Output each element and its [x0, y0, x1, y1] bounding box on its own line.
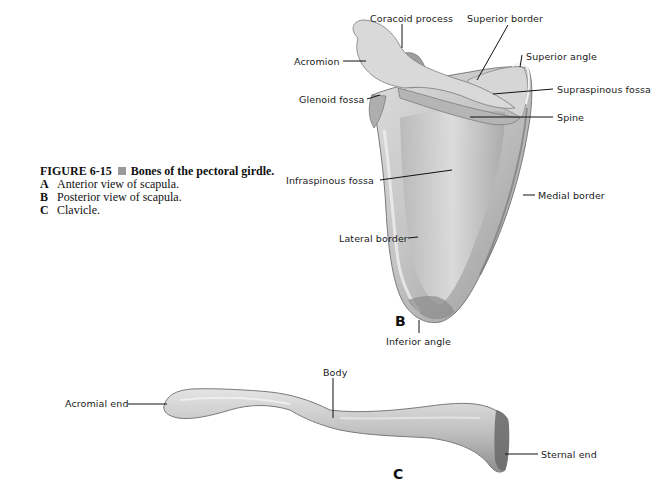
- figure-number: FIGURE 6-15: [40, 164, 112, 178]
- bone-illustrations: [0, 0, 665, 489]
- label-acromion: Acromion: [294, 56, 340, 67]
- label-body: Body: [323, 367, 347, 378]
- caption-square-icon: [118, 167, 126, 175]
- figure-caption: FIGURE 6-15Bones of the pectoral girdle.…: [40, 165, 274, 217]
- panel-letter-b: B: [395, 313, 406, 329]
- label-acromial-end: Acromial end: [65, 398, 129, 409]
- panel-letter-c: C: [393, 466, 403, 482]
- label-medial-border: Medial border: [538, 190, 605, 201]
- clavicle-illustration: [164, 389, 509, 472]
- caption-item-text: Anterior view of scapula.: [57, 177, 179, 191]
- label-spine: Spine: [557, 112, 584, 123]
- label-sternal-end: Sternal end: [541, 449, 597, 460]
- label-superior-border: Superior border: [467, 13, 543, 24]
- label-infraspinous-fossa: Infraspinous fossa: [286, 175, 374, 186]
- caption-item-key: C: [40, 204, 57, 217]
- label-coracoid-process: Coracoid process: [370, 13, 453, 24]
- caption-item-text: Posterior view of scapula.: [57, 190, 182, 204]
- label-supraspinous-fossa: Supraspinous fossa: [557, 84, 651, 95]
- label-lateral-border: Lateral border: [339, 233, 408, 244]
- label-inferior-angle: Inferior angle: [386, 336, 451, 347]
- label-superior-angle: Superior angle: [526, 51, 597, 62]
- label-glenoid-fossa: Glenoid fossa: [299, 94, 365, 105]
- figure-canvas: FIGURE 6-15Bones of the pectoral girdle.…: [0, 0, 665, 489]
- caption-item-text: Clavicle.: [57, 203, 100, 217]
- caption-item-c: CClavicle.: [40, 204, 274, 217]
- figure-title: Bones of the pectoral girdle.: [131, 164, 275, 178]
